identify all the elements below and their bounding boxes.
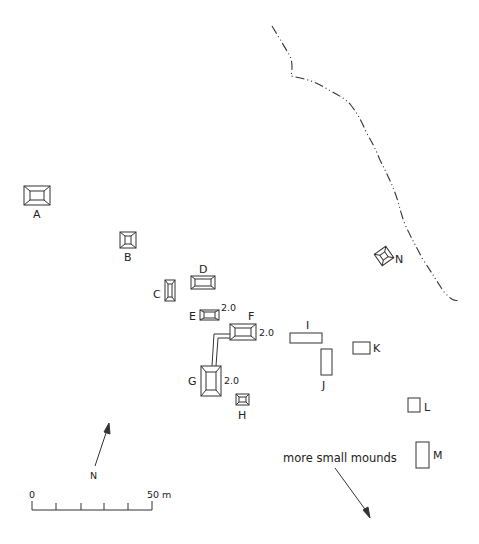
more-mounds-arrow (335, 468, 370, 518)
label-b: B (124, 251, 132, 264)
mound-g[interactable] (201, 366, 221, 396)
mound-i[interactable] (290, 333, 322, 343)
label-i: I (306, 319, 309, 332)
mound-c[interactable] (165, 280, 175, 301)
label-f: F (248, 310, 254, 323)
mound-e[interactable] (200, 310, 219, 320)
mound-d[interactable] (191, 276, 215, 289)
height-f: 2.0 (259, 327, 274, 338)
mound-f[interactable] (230, 324, 256, 340)
label-m: M (433, 449, 443, 462)
scale-end-label: 50 m (147, 489, 171, 500)
height-g: 2.0 (224, 375, 239, 386)
label-e: E (189, 310, 196, 323)
scale-bar (32, 501, 152, 510)
mound-m[interactable] (416, 442, 429, 468)
label-h: H (238, 409, 246, 422)
mound-j[interactable] (321, 349, 332, 375)
mound-l[interactable] (408, 398, 420, 412)
mound-b[interactable] (120, 232, 136, 248)
scale-start-label: 0 (29, 489, 35, 500)
boundary-line (272, 26, 458, 301)
label-n: N (395, 253, 403, 266)
label-c: C (153, 288, 161, 301)
label-k: K (373, 342, 381, 355)
mound-n[interactable] (374, 246, 393, 265)
mound-h[interactable] (236, 394, 249, 405)
label-j: J (321, 379, 325, 392)
mound-k[interactable] (353, 342, 370, 354)
site-plan-map: A B C D E 2.0 F 2.0 G 2.0 H I J K L M N … (0, 0, 479, 544)
causeway-f-g (212, 334, 230, 366)
north-label: N (90, 470, 97, 481)
label-g: G (188, 375, 197, 388)
label-l: L (424, 401, 431, 414)
north-arrow (95, 423, 110, 466)
label-a: A (33, 208, 41, 221)
label-d: D (199, 263, 207, 276)
more-mounds-note: more small mounds (283, 451, 397, 465)
mound-a[interactable] (24, 186, 50, 205)
height-e: 2.0 (221, 302, 236, 313)
